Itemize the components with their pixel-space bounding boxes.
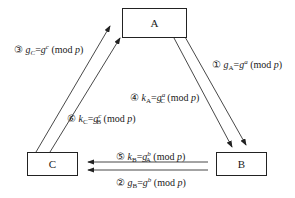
edge-label-3: ③ gC=gc (mod p) (14, 41, 83, 59)
edge-label-4: ④ kA=gaC (mod p) (130, 89, 199, 107)
node-a: A (122, 8, 187, 38)
node-b-label: B (238, 158, 245, 170)
node-a-label: A (151, 17, 159, 29)
arrow-a-to-b-outer (180, 28, 246, 145)
edge-label-6: ⑥ kC=gcB (mod p) (67, 110, 136, 128)
edge-label-2: ② gB=gb (mod p) (116, 174, 186, 192)
edge-label-1: ① gA=ga (mod p) (212, 56, 282, 74)
node-c-label: C (49, 158, 56, 170)
node-c: C (27, 152, 78, 176)
node-b: B (216, 152, 267, 176)
edge-label-5: ⑤ kB=gbA (mod p) (116, 148, 185, 166)
